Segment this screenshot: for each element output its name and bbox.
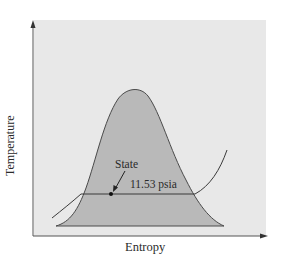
- ts-diagram: Temperature Entropy State 11.53 psia: [0, 0, 281, 259]
- diagram-canvas: [0, 0, 281, 259]
- pressure-label: 11.53 psia: [130, 178, 177, 190]
- state-point: [109, 192, 113, 196]
- state-label: State: [115, 158, 138, 170]
- x-axis-label: Entropy: [125, 240, 165, 255]
- y-axis-label: Temperature: [3, 116, 18, 176]
